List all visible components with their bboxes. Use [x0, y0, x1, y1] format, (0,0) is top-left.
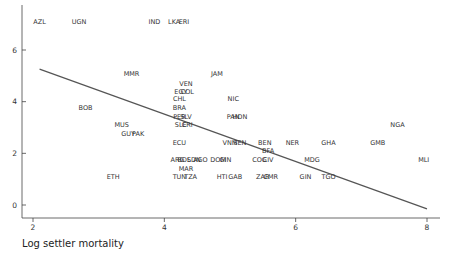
point-label-tza: TZA: [183, 173, 197, 181]
point-label-nic: NIC: [228, 95, 240, 103]
y-tick-label: 2: [12, 149, 17, 158]
point-label-ner: NER: [286, 139, 300, 147]
point-label-jam: JAM: [210, 70, 223, 78]
point-label-cmr: CMR: [263, 173, 278, 181]
point-label-civ: CIV: [263, 156, 274, 164]
point-label-azl: AZL: [33, 18, 46, 26]
point-label-ecu: ECU: [173, 139, 187, 147]
point-label-eth: ETH: [107, 173, 120, 181]
point-label-gmb: GMB: [370, 139, 385, 147]
x-tick-label: 4: [162, 223, 167, 232]
x-tick-label: 6: [293, 223, 298, 232]
point-label-ago: AGO: [193, 156, 208, 164]
point-label-ind: IND: [149, 18, 161, 26]
x-axis-label: Log settler mortality: [22, 238, 124, 249]
point-label-gab: GAB: [228, 173, 242, 181]
point-label-gin: GIN: [219, 156, 231, 164]
y-tick-label: 4: [12, 97, 17, 106]
point-label-cri: CRI: [182, 121, 193, 129]
point-label-sen: SEN: [233, 139, 246, 147]
point-label-mdg: MDG: [304, 156, 320, 164]
point-label-bob: BOB: [79, 104, 93, 112]
point-label-mli: MLI: [418, 156, 429, 164]
point-label-hon: HON: [232, 113, 247, 121]
point-label-gin: GIN: [300, 173, 312, 181]
points-group: AZLUGNINDLKAERIMMRJAMVENEGYCOLCHLNICBRAB…: [33, 18, 429, 181]
point-label-ugn: UGN: [72, 18, 87, 26]
point-label-mus: MUS: [114, 121, 129, 129]
point-label-bra: BRA: [173, 104, 187, 112]
scatter-chart: 02462468 AZLUGNINDLKAERIMMRJAMVENEGYCOLC…: [0, 0, 449, 263]
point-label-nga: NGA: [390, 121, 405, 129]
y-tick-label: 0: [12, 201, 17, 210]
point-label-mmr: MMR: [124, 70, 140, 78]
x-tick-label: 2: [31, 223, 36, 232]
x-tick-label: 8: [425, 223, 430, 232]
point-label-eri: ERI: [179, 18, 190, 26]
point-label-tgo: TGO: [320, 173, 335, 181]
point-label-bfa: BFA: [262, 147, 275, 155]
y-tick-label: 6: [12, 46, 17, 55]
point-label-chl: CHL: [173, 95, 186, 103]
point-label-gha: GHA: [321, 139, 336, 147]
point-label-pak: PAK: [132, 130, 145, 138]
point-label-hti: HTI: [217, 173, 228, 181]
